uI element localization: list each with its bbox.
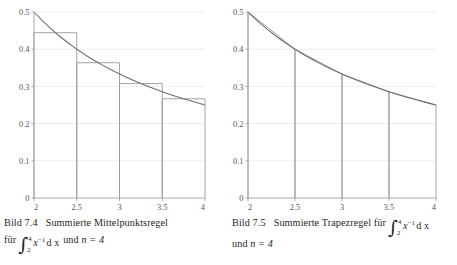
integral-expression-left: ∫42x−1d x <box>18 232 59 252</box>
y-tick-label: 0.2 <box>19 120 29 129</box>
trapezoid <box>342 74 389 198</box>
caption-number-left: Bild 7.4 <box>4 217 38 228</box>
caption-n-label-left: n = 4 <box>81 234 104 245</box>
integral-limits-right: 42 <box>398 219 403 235</box>
midpoint-rectangle <box>77 63 120 198</box>
integral-differential: d x <box>46 237 59 248</box>
y-tick-label: 0.4 <box>19 45 30 54</box>
integral-limits-left: 42 <box>28 236 33 252</box>
midpoint-rectangle <box>120 84 163 198</box>
integral-lower-limit: 2 <box>27 246 30 253</box>
trapezoid <box>248 12 295 198</box>
y-tick-label: 0.4 <box>233 45 244 54</box>
x-tick-label: 3.5 <box>384 203 394 212</box>
trapezoid-rule-plot: 00.10.20.30.40.522.533.54 <box>228 0 457 214</box>
y-tick-label: 0.3 <box>233 83 243 92</box>
integrand-exponent: −1 <box>408 219 416 227</box>
y-tick-label: 0.1 <box>233 157 243 166</box>
y-tick-label: 0.1 <box>19 157 29 166</box>
caption-suffix-left: und <box>63 234 79 245</box>
x-tick-label: 3 <box>117 203 121 212</box>
x-axis-ticks: 22.533.54 <box>34 198 206 212</box>
x-tick-label: 3 <box>340 203 344 212</box>
figure-caption-right: Bild 7.5Summierte Trapezregel für∫42x−1d… <box>232 214 454 252</box>
trapezoid <box>389 92 436 198</box>
x-tick-label: 2 <box>248 203 252 212</box>
x-tick-label: 2.5 <box>72 203 82 212</box>
y-tick-label: 0 <box>239 194 243 203</box>
caption-n-label-right: n = 4 <box>250 238 273 249</box>
trapezoid-rule-svg: 00.10.20.30.40.522.533.54 <box>228 0 457 214</box>
integral-upper-limit: 4 <box>398 218 401 225</box>
caption-number-right: Bild 7.5 <box>232 217 266 228</box>
x-tick-label: 2 <box>34 203 38 212</box>
midpoint-rule-plot: 00.10.20.30.40.522.533.54 <box>0 0 228 214</box>
y-tick-label: 0 <box>25 194 29 203</box>
integral-lower-limit: 2 <box>397 229 400 236</box>
caption-text-left: Summierte Mittelpunktsregel <box>46 217 168 228</box>
integral-expression-right: ∫42x−1d x <box>388 215 429 235</box>
y-tick-label: 0.5 <box>19 8 29 17</box>
y-tick-label: 0.5 <box>233 8 243 17</box>
trapezoids <box>248 12 436 198</box>
integrand-exponent: −1 <box>38 236 46 244</box>
figure-caption-left: Bild 7.4Summierte Mittelpunktsregel für∫… <box>4 214 222 252</box>
y-tick-label: 0.3 <box>19 83 29 92</box>
x-axis-ticks: 22.533.54 <box>248 198 437 212</box>
midpoint-rule-svg: 00.10.20.30.40.522.533.54 <box>0 0 228 214</box>
integral-differential: d x <box>416 220 429 231</box>
caption-prefix-left: für <box>4 234 16 245</box>
integral-upper-limit: 4 <box>28 235 31 242</box>
midpoint-rectangles <box>34 33 205 198</box>
x-tick-label: 4 <box>432 203 437 212</box>
x-tick-label: 2.5 <box>290 203 300 212</box>
y-axis-ticks: 00.10.20.30.40.5 <box>233 8 248 203</box>
midpoint-rectangle <box>34 33 77 198</box>
y-axis-ticks: 00.10.20.30.40.5 <box>19 8 34 203</box>
x-tick-label: 3.5 <box>157 203 167 212</box>
caption-text-right: Summierte Trapezregel für <box>274 217 386 228</box>
midpoint-rectangle <box>162 99 205 198</box>
caption-prefix-right: und <box>232 238 248 249</box>
y-tick-label: 0.2 <box>233 120 243 129</box>
x-tick-label: 4 <box>201 203 206 212</box>
